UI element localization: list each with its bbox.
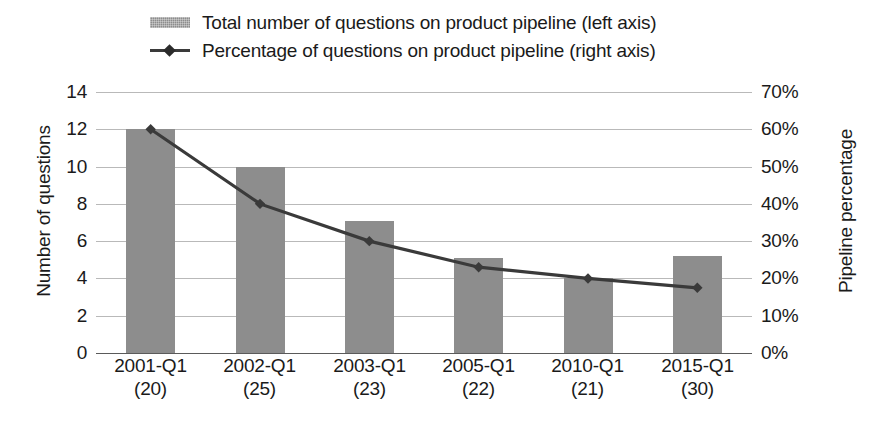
x-category-name: 2002-Q1 xyxy=(205,354,314,377)
left-axis-title: Number of questions xyxy=(33,81,55,341)
chart-container: Total number of questions on product pip… xyxy=(0,0,885,436)
x-category-name: 2005-Q1 xyxy=(424,354,533,377)
x-category-count: (21) xyxy=(533,377,642,400)
left-tick-label: 2 xyxy=(77,306,87,325)
x-category-name: 2001-Q1 xyxy=(96,354,205,377)
x-category-count: (20) xyxy=(96,377,205,400)
legend-item-bars: Total number of questions on product pip… xyxy=(150,8,750,36)
right-tick-label: 50% xyxy=(761,157,798,176)
right-tick-label: 30% xyxy=(761,231,798,250)
x-category-count: (30) xyxy=(643,377,752,400)
trend-line xyxy=(151,129,698,287)
line-diamond-icon xyxy=(150,45,190,56)
left-tick-label: 6 xyxy=(77,231,87,250)
left-tick-label: 8 xyxy=(77,194,87,213)
legend-label-bars: Total number of questions on product pip… xyxy=(202,13,656,32)
line-marker xyxy=(364,236,374,246)
line-marker xyxy=(692,283,702,293)
right-tick-label: 70% xyxy=(761,82,798,101)
bar-swatch-icon xyxy=(150,17,190,28)
left-tick-label: 14 xyxy=(66,82,87,101)
legend-label-line: Percentage of questions on product pipel… xyxy=(202,41,656,60)
x-category-label: 2010-Q1(21) xyxy=(533,354,642,400)
right-tick-label: 10% xyxy=(761,306,798,325)
x-category-label: 2015-Q1(30) xyxy=(643,354,752,400)
x-category-count: (25) xyxy=(205,377,314,400)
x-category-label: 2003-Q1(23) xyxy=(315,354,424,400)
left-tick-label: 10 xyxy=(66,157,87,176)
line-series xyxy=(96,92,752,353)
x-category-label: 2005-Q1(22) xyxy=(424,354,533,400)
x-category-name: 2010-Q1 xyxy=(533,354,642,377)
left-tick-label: 12 xyxy=(66,119,87,138)
chart-legend: Total number of questions on product pip… xyxy=(150,8,750,64)
right-tick-label: 40% xyxy=(761,194,798,213)
left-tick-label: 4 xyxy=(77,268,87,287)
right-tick-label: 0% xyxy=(761,343,788,362)
line-marker xyxy=(583,273,593,283)
right-axis-title: Pipeline percentage xyxy=(835,81,857,341)
right-tick-label: 60% xyxy=(761,119,798,138)
x-category-count: (23) xyxy=(315,377,424,400)
legend-item-line: Percentage of questions on product pipel… xyxy=(150,36,750,64)
x-category-count: (22) xyxy=(424,377,533,400)
line-marker xyxy=(473,262,483,272)
x-category-label: 2002-Q1(25) xyxy=(205,354,314,400)
x-category-name: 2003-Q1 xyxy=(315,354,424,377)
right-tick-label: 20% xyxy=(761,268,798,287)
x-category-name: 2015-Q1 xyxy=(643,354,752,377)
x-category-label: 2001-Q1(20) xyxy=(96,354,205,400)
plot-area: 02468101214 0%10%20%30%40%50%60%70% 2001… xyxy=(96,92,752,353)
left-tick-label: 0 xyxy=(77,343,87,362)
